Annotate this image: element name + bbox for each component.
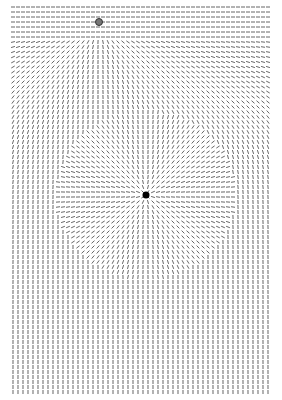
center-dot — [143, 192, 150, 199]
field-line-segments — [11, 7, 270, 394]
field-svg — [0, 0, 282, 400]
field-segments — [11, 7, 270, 394]
orientation-field-figure — [0, 0, 282, 400]
small-source-marker — [96, 19, 103, 26]
